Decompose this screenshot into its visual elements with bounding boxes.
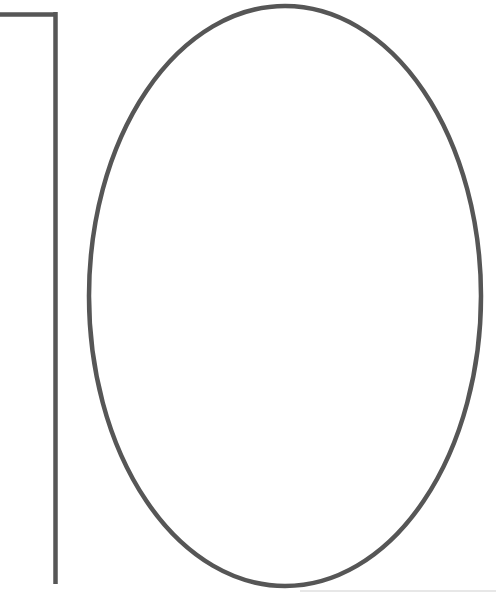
numeral-ten-drawing xyxy=(0,0,496,596)
image-canvas: A large hand-drawn style outline of the … xyxy=(0,0,496,596)
